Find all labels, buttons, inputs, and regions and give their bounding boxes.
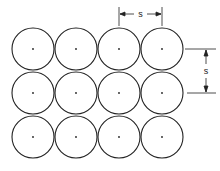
center-dot-icon: [161, 48, 163, 50]
center-dot-icon: [32, 136, 34, 138]
circle-grid: [12, 28, 183, 158]
circle-array-diagram: s s: [0, 0, 220, 171]
center-dot-icon: [75, 92, 77, 94]
center-dot-icon: [75, 136, 77, 138]
center-dot-icon: [75, 48, 77, 50]
vertical-dimension: [185, 49, 216, 93]
center-dot-icon: [32, 48, 34, 50]
arrowhead-left-icon: [120, 12, 125, 16]
horizontal-pitch-label: s: [138, 9, 143, 19]
center-dot-icon: [32, 92, 34, 94]
center-dot-icon: [161, 136, 163, 138]
center-dot-icon: [118, 136, 120, 138]
center-dot-icon: [161, 92, 163, 94]
arrowhead-right-icon: [156, 12, 161, 16]
vertical-pitch-label: s: [204, 66, 209, 76]
arrowhead-down-icon: [204, 86, 208, 92]
center-dot-icon: [118, 92, 120, 94]
arrowhead-up-icon: [204, 50, 208, 56]
center-dot-icon: [118, 48, 120, 50]
